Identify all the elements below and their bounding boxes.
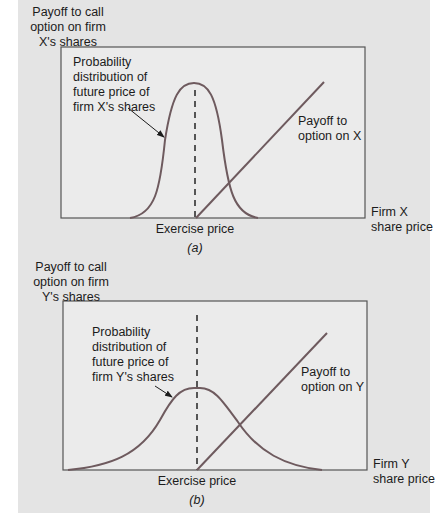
distribution-label-a: Probability distribution of future price… [73,55,155,115]
exercise-price-label-a: Exercise price [145,222,245,237]
y-axis-label-a: Payoff to call option on firm X's shares [18,5,118,50]
x-axis-label-b: Firm Y share price [373,457,435,487]
caption-a: (a) [175,241,215,256]
distribution-label-b: Probability distribution of future price… [92,325,174,385]
payoff-label-a: Payoff to option on X [298,114,361,144]
exercise-price-label-b: Exercise price [147,474,247,489]
y-axis-label-b: Payoff to call option on firm Y's shares [20,260,122,305]
caption-b: (b) [177,493,217,508]
payoff-label-b: Payoff to option on Y [301,365,364,395]
x-axis-label-a: Firm X share price [371,205,433,235]
